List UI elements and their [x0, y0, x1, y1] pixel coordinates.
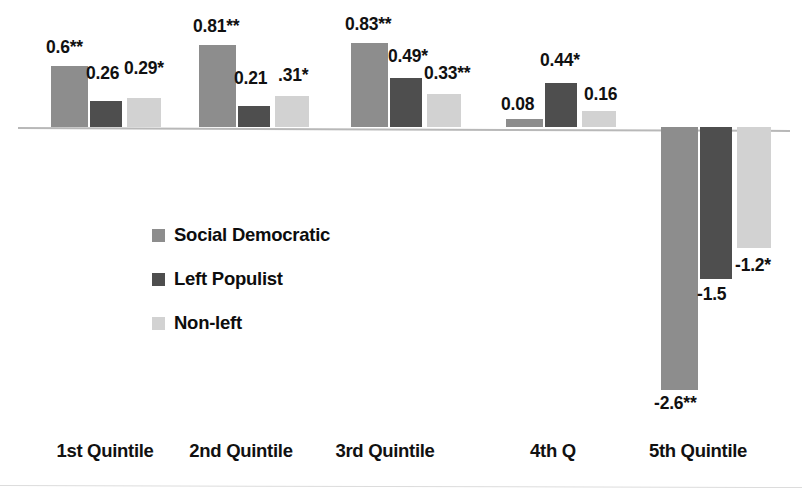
- bar-q1-non-left: [127, 98, 161, 127]
- category-label-3: 3rd Quintile: [335, 440, 434, 462]
- bar-q1-social-democratic: [51, 66, 88, 127]
- category-axis: 1st Quintile2nd Quintile3rd Quintile4th …: [0, 440, 802, 480]
- bar-q5-left-populist: [700, 127, 732, 279]
- category-label-5: 5th Quintile: [649, 440, 747, 462]
- bar-q2-left-populist-value-label: 0.21: [234, 68, 267, 89]
- bar-q1-social-democratic-value-label: 0.6**: [46, 37, 83, 58]
- bar-q4-left-populist: [545, 83, 577, 127]
- bar-q2-social-democratic: [199, 45, 236, 127]
- plot-area: 0.6**0.260.29*0.81**0.21.31*0.83**0.49*0…: [0, 0, 802, 432]
- legend-label-non-left: Non-left: [174, 312, 242, 334]
- category-label-1: 1st Quintile: [56, 440, 153, 462]
- bar-q3-non-left-value-label: 0.33**: [424, 63, 470, 84]
- bar-q4-left-populist-value-label: 0.44*: [540, 50, 580, 71]
- legend-swatch-icon-non-left: [152, 317, 165, 330]
- bar-q5-non-left: [737, 127, 771, 248]
- bar-q1-left-populist-value-label: 0.26: [86, 63, 119, 84]
- bar-q2-left-populist: [238, 106, 270, 127]
- legend-item-non-left: Non-left: [152, 301, 330, 345]
- bar-q2-non-left-value-label: .31*: [278, 65, 308, 86]
- bar-q3-non-left: [427, 94, 461, 127]
- bar-q5-social-democratic: [661, 127, 698, 390]
- bar-q3-social-democratic: [351, 43, 388, 127]
- legend-label-left-populist: Left Populist: [174, 268, 283, 290]
- chart-legend: Social Democratic Left Populist Non-left: [152, 213, 330, 345]
- bar-q2-non-left: [275, 96, 309, 127]
- bar-q5-left-populist-value-label: -1.5: [697, 284, 726, 305]
- legend-swatch-icon-left-populist: [152, 273, 165, 286]
- legend-swatch-icon-social-democratic: [152, 229, 165, 242]
- bar-q4-social-democratic: [506, 119, 543, 127]
- bar-q2-social-democratic-value-label: 0.81**: [193, 16, 239, 37]
- bar-q5-non-left-value-label: -1.2*: [735, 255, 771, 276]
- bar-q3-social-democratic-value-label: 0.83**: [345, 14, 391, 35]
- legend-item-social-democratic: Social Democratic: [152, 213, 330, 257]
- category-label-2: 2nd Quintile: [189, 440, 292, 462]
- bar-q4-non-left-value-label: 0.16: [584, 84, 617, 105]
- bottom-rule-divider: [0, 485, 802, 488]
- legend-label-social-democratic: Social Democratic: [174, 224, 330, 246]
- legend-item-left-populist: Left Populist: [152, 257, 330, 301]
- bar-q3-left-populist-value-label: 0.49*: [388, 46, 428, 67]
- bar-q1-left-populist: [90, 101, 122, 127]
- category-label-4: 4th Q: [530, 440, 576, 462]
- bar-q5-social-democratic-value-label: -2.6**: [654, 393, 697, 414]
- bar-q4-non-left: [582, 111, 616, 127]
- bar-q3-left-populist: [390, 78, 422, 127]
- bar-q1-non-left-value-label: 0.29*: [124, 58, 164, 79]
- bar-chart-figure: 0.6**0.260.29*0.81**0.21.31*0.83**0.49*0…: [0, 0, 802, 499]
- bar-q4-social-democratic-value-label: 0.08: [501, 94, 534, 115]
